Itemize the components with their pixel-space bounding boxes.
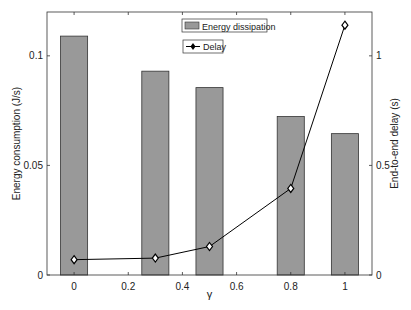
y-right-tick-label: 1 — [376, 50, 382, 61]
legend-delay-label: Delay — [203, 42, 227, 52]
bar — [331, 134, 358, 275]
x-tick-label: 0 — [71, 281, 77, 292]
y-right-tick-label: 0 — [376, 270, 382, 281]
y-left-tick-label: 0 — [37, 270, 43, 281]
bar — [142, 71, 169, 275]
x-tick-label: 0.8 — [284, 281, 298, 292]
legend-bar-swatch-icon — [185, 22, 199, 29]
y-left-axis-label: Energy consumption (J/s) — [11, 87, 22, 200]
y-left-tick-label: 0.1 — [29, 50, 43, 61]
x-tick-label: 0.2 — [121, 281, 135, 292]
x-tick-label: 1 — [342, 281, 348, 292]
chart: 00.20.40.60.8100.050.100.51γEnergy consu… — [0, 0, 411, 310]
legend-energy-label: Energy dissipation — [202, 22, 276, 32]
diamond-marker-icon — [342, 21, 348, 29]
x-tick-label: 0.4 — [175, 281, 189, 292]
x-tick-label: 0.6 — [230, 281, 244, 292]
bar — [61, 36, 88, 275]
y-right-axis-label: End-to-end delay (s) — [389, 98, 400, 189]
y-left-tick-label: 0.05 — [24, 160, 44, 171]
x-axis-label: γ — [207, 288, 213, 300]
